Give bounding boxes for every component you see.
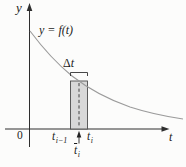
right-endpoint-subscript: i (91, 136, 93, 145)
y-axis-arrowhead-icon (27, 3, 33, 11)
sample-point-base: t (74, 144, 77, 156)
sample-point-arrowhead-icon (77, 131, 82, 138)
left-endpoint-subscript: i−1 (56, 136, 68, 145)
right-endpoint-base: t (87, 130, 90, 142)
delta-t-bracket (71, 73, 88, 77)
origin-label: 0 (17, 130, 23, 142)
t-axis-label: t (169, 131, 172, 143)
curve-equation-label: y = f(t) (39, 24, 73, 36)
function-curve (30, 31, 183, 119)
sample-point-subscript: i (78, 150, 80, 159)
delta-t-label: Δt (63, 57, 74, 69)
delta-variable: t (71, 56, 74, 70)
figure-canvas: y y = f(t) Δt 0 ti−1 ti ti t (0, 0, 186, 167)
right-endpoint-label: ti (87, 131, 93, 143)
y-axis-label: y (16, 1, 22, 14)
left-endpoint-base: t (52, 130, 55, 142)
diagram-svg (0, 0, 186, 167)
left-endpoint-label: ti−1 (52, 131, 67, 143)
delta-symbol: Δ (63, 56, 71, 70)
mean-sample-point-label: ti (74, 145, 80, 157)
riemann-rectangle (71, 81, 88, 129)
